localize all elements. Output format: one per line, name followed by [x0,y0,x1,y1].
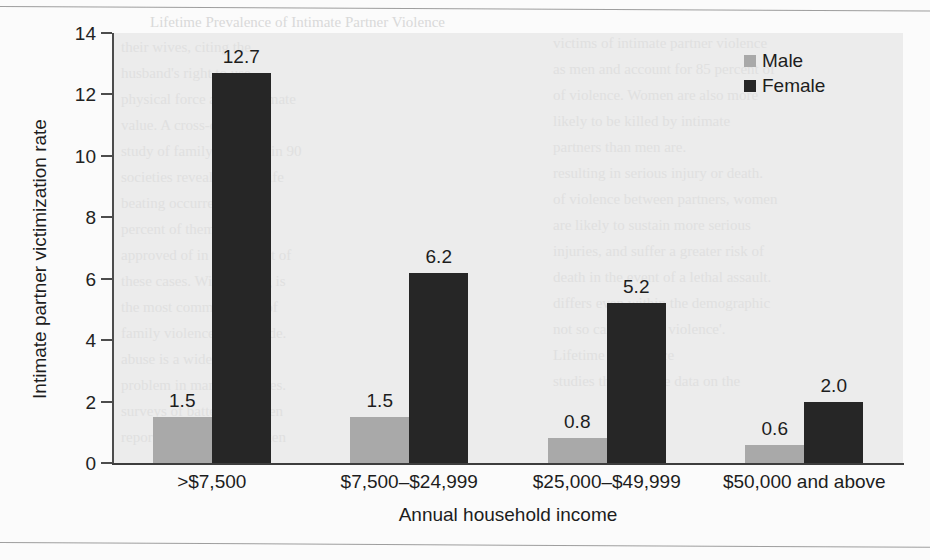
x-axis-category-label: $7,500–$24,999 [311,471,509,493]
y-axis-tick [101,155,112,157]
x-axis-category-label: $50,000 and above [706,471,904,493]
legend-item-male[interactable]: Male [744,48,825,73]
bar-value-label: 6.2 [397,247,480,266]
legend-label-male: Male [762,51,803,70]
bleed-through-text: likely to be killed by intimate [553,113,730,130]
bar-male-3[interactable] [745,445,804,463]
bar-value-label: 12.7 [200,47,283,66]
bar-male-1[interactable] [350,417,409,463]
bleed-through-text: of violence. Women are also more [553,87,758,104]
y-axis-title: Intimate partner victimization rate [29,59,51,459]
bleed-through-text: as men and account for 85 percent of [553,61,775,78]
legend: Male Female [744,48,825,98]
y-axis-tick [101,401,112,403]
x-axis-title: Annual household income [113,504,903,526]
bar-value-label: 2.0 [792,376,875,395]
y-axis-tick [101,278,112,280]
y-axis-tick [101,339,112,341]
bleed-through-text: of violence between partners, women [553,191,778,208]
y-axis-tick-label: 14 [0,24,96,43]
x-axis-category-label: >$7,500 [113,471,311,493]
bar-value-label: 5.2 [595,277,678,296]
bar-female-2[interactable] [607,303,666,463]
legend-label-female: Female [762,76,825,95]
bar-male-2[interactable] [548,438,607,463]
bar-female-3[interactable] [804,402,863,463]
female-swatch [744,80,756,92]
male-swatch [744,55,756,67]
bar-female-0[interactable] [212,73,271,463]
y-axis-tick [101,32,112,34]
y-axis-tick [101,462,112,464]
bleed-through-text: are likely to sustain more serious [553,217,751,234]
bar-chart: their wives, citing thehusband's right t… [0,0,930,560]
y-axis-tick [101,93,112,95]
bar-male-0[interactable] [153,417,212,463]
bleed-through-text: victims of intimate partner violence [553,35,767,52]
legend-item-female[interactable]: Female [744,73,825,98]
y-axis-line [112,33,114,464]
bleed-through-text: partners than men are. [553,139,686,156]
y-axis-tick [101,216,112,218]
bleed-through-text: injuries, and suffer a greater risk of [553,243,764,260]
bleed-through-text: resulting in serious injury or death. [553,165,763,182]
x-axis-line [112,463,904,465]
x-axis-category-label: $25,000–$49,999 [508,471,706,493]
bar-female-1[interactable] [409,273,468,463]
